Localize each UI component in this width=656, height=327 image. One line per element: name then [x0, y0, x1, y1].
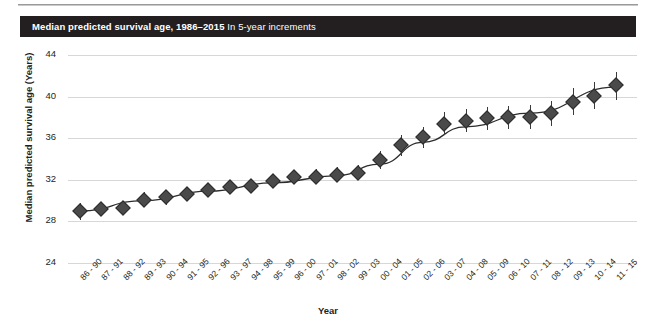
chart-plot-area: Median predicted survival age (Years) 24…	[0, 37, 656, 327]
data-point-marker	[308, 169, 324, 185]
x-axis-title: Year	[0, 305, 656, 316]
y-axis-tick-label: 36	[30, 131, 56, 142]
top-divider-rule	[18, 4, 638, 6]
chart-title-bar: Median predicted survival age, 1986–2015…	[20, 16, 636, 37]
data-point-marker	[393, 138, 409, 154]
data-series-markers	[68, 37, 637, 277]
data-point-marker	[458, 113, 474, 129]
y-axis-tick-label: 40	[30, 90, 56, 101]
data-point-marker	[479, 111, 495, 127]
data-point-marker	[265, 173, 281, 189]
data-point-marker	[351, 165, 367, 181]
data-point-marker	[372, 152, 388, 168]
data-point-marker	[501, 110, 517, 126]
data-point-marker	[93, 201, 109, 217]
data-point-marker	[608, 77, 624, 93]
data-point-marker	[586, 88, 602, 104]
data-point-marker	[286, 169, 302, 185]
x-axis-ticks: 86 - 9087 - 9188 - 9289 - 9390 - 9491 - …	[0, 269, 656, 327]
data-point-marker	[565, 94, 581, 110]
chart-title-text: Median predicted survival age, 1986–2015…	[20, 21, 316, 32]
y-axis-tick-label: 44	[30, 48, 56, 59]
chart-title-subtitle: In 5-year increments	[227, 21, 316, 32]
data-point-marker	[115, 200, 131, 216]
data-point-marker	[436, 116, 452, 132]
y-axis-tick-label: 28	[30, 214, 56, 225]
data-point-marker	[222, 179, 238, 195]
data-point-marker	[201, 182, 217, 198]
data-point-marker	[179, 187, 195, 203]
y-axis-tick-label: 24	[30, 256, 56, 267]
data-point-marker	[415, 129, 431, 145]
data-point-marker	[158, 190, 174, 206]
y-axis-tick-label: 32	[30, 173, 56, 184]
chart-title-main: Median predicted survival age, 1986–2015	[32, 21, 225, 32]
data-point-marker	[522, 110, 538, 126]
data-point-marker	[329, 167, 345, 183]
data-point-marker	[72, 203, 88, 219]
data-point-marker	[243, 178, 259, 194]
data-point-marker	[543, 105, 559, 121]
data-point-marker	[136, 192, 152, 208]
